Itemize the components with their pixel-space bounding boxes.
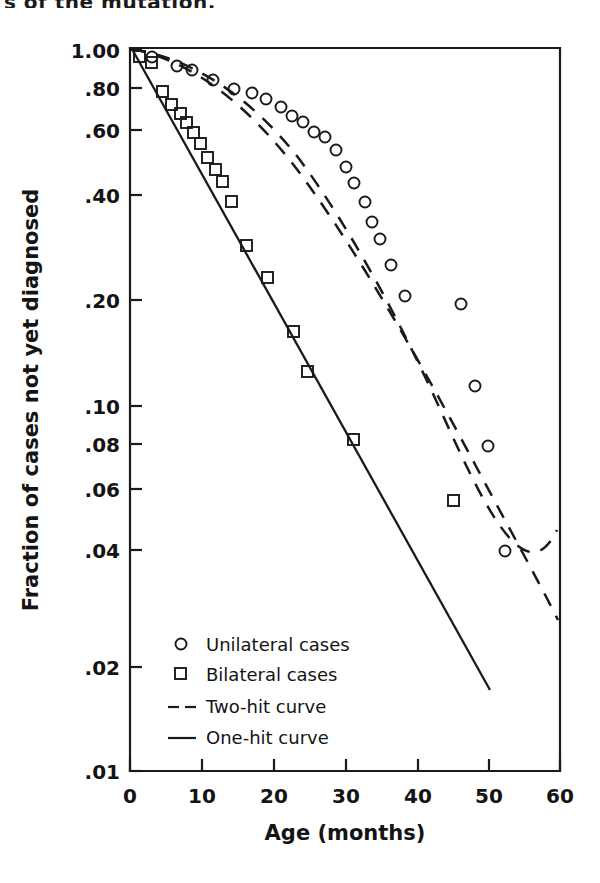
ytick-label: .02 [85, 656, 120, 680]
two-hit-curve-main [132, 49, 558, 620]
y-axis-ticks [130, 50, 142, 771]
data-point-square [195, 138, 206, 149]
data-point-circle [331, 145, 342, 156]
survival-curve-chart: 1.00 .80 .60 .40 .20 .10 .08 .06 .04 .02… [0, 0, 600, 883]
ytick-label: 1.00 [71, 39, 120, 63]
data-point-circle [309, 127, 320, 138]
data-point-square [448, 495, 459, 506]
two-hit-curve [132, 49, 557, 552]
x-axis-label: Age (months) [265, 821, 426, 845]
data-point-circle [276, 102, 287, 113]
data-point-circle [483, 441, 494, 452]
xtick-label: 30 [332, 784, 360, 808]
xtick-label: 60 [546, 784, 574, 808]
ytick-label: .04 [85, 539, 120, 563]
data-point-circle [386, 260, 397, 271]
xtick-label: 20 [260, 784, 288, 808]
unilateral-data-points [147, 52, 511, 557]
one-hit-curve [132, 49, 490, 690]
legend-label-two-hit: Two-hit curve [205, 696, 326, 717]
data-point-circle [341, 162, 352, 173]
ytick-label: .08 [85, 433, 120, 457]
x-axis-ticks [130, 759, 560, 771]
data-point-circle [375, 234, 386, 245]
legend-label-one-hit: One-hit curve [206, 727, 329, 748]
data-point-circle [500, 546, 511, 557]
data-point-circle [247, 88, 258, 99]
ytick-label: .60 [85, 119, 120, 143]
data-point-square [226, 196, 237, 207]
data-point-circle [349, 178, 360, 189]
xtick-label: 40 [404, 784, 432, 808]
ytick-label: .20 [85, 289, 120, 313]
data-point-circle [360, 197, 371, 208]
ytick-label: .80 [85, 77, 120, 101]
ytick-label: .40 [85, 184, 120, 208]
figure-container: s of the mutation. 1.00 .80 .6 [0, 0, 600, 883]
data-point-square [210, 164, 221, 175]
data-point-circle [470, 381, 481, 392]
chart-legend: Unilateral cases Bilateral cases Two-hit… [168, 634, 350, 748]
x-axis-tick-labels: 0 10 20 30 40 50 60 [123, 784, 574, 808]
data-point-square [202, 152, 213, 163]
data-point-circle [261, 94, 272, 105]
plot-frame [130, 48, 560, 771]
data-point-circle [320, 132, 331, 143]
xtick-label: 10 [188, 784, 216, 808]
y-axis-label: Fraction of cases not yet diagnosed [19, 189, 43, 612]
legend-square-marker-icon [175, 668, 186, 679]
data-point-circle [287, 111, 298, 122]
legend-circle-marker-icon [176, 639, 187, 650]
data-point-square [217, 176, 228, 187]
data-point-circle [367, 217, 378, 228]
legend-label-unilateral: Unilateral cases [206, 634, 350, 655]
xtick-label: 50 [475, 784, 503, 808]
xtick-label: 0 [123, 784, 137, 808]
y-axis-tick-labels: 1.00 .80 .60 .40 .20 .10 .08 .06 .04 .02… [71, 39, 120, 784]
ytick-label: .01 [85, 760, 120, 784]
ytick-label: .10 [85, 395, 120, 419]
data-point-circle [456, 299, 467, 310]
data-point-circle [298, 117, 309, 128]
data-point-square [262, 272, 273, 283]
data-point-circle [400, 291, 411, 302]
legend-label-bilateral: Bilateral cases [206, 664, 337, 685]
ytick-label: .06 [85, 478, 120, 502]
